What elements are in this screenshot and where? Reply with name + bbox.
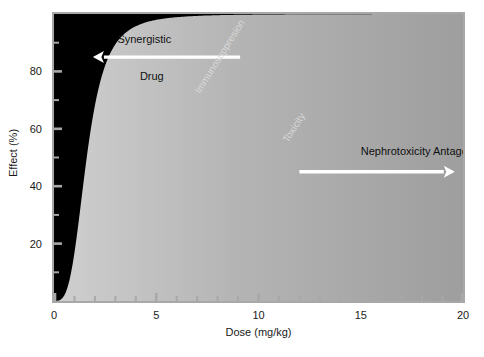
figure-dose-effect-chart: Effect (%) 20406080 <box>0 0 484 357</box>
annotation-drug: Drug <box>140 70 164 82</box>
annotation-nephrotoxicity-antagonist: Nephrotoxicity Antagonist <box>361 145 465 157</box>
x-tick-label-10: 10 <box>252 309 264 321</box>
y-axis: Effect (%) 20406080 <box>0 12 52 303</box>
plot-area: Immunosuppresion Toxicity Synergistic Dr… <box>52 12 465 303</box>
y-tick-label-40: 40 <box>30 180 42 192</box>
y-tick-label-20: 20 <box>30 238 42 250</box>
y-tick-label-80: 80 <box>30 65 42 77</box>
x-tick-label-15: 15 <box>355 309 367 321</box>
y-tick-label-60: 60 <box>30 123 42 135</box>
x-tick-label-20: 20 <box>457 309 469 321</box>
annotation-synergistic: Synergistic <box>117 33 171 45</box>
x-axis: 05101520 Dose (mg/kg) <box>52 303 465 343</box>
x-axis-title: Dose (mg/kg) <box>52 326 465 338</box>
x-tick-label-5: 5 <box>153 309 159 321</box>
x-tick-label-0: 0 <box>51 309 57 321</box>
y-axis-title: Effect (%) <box>7 108 19 198</box>
plot-canvas <box>54 14 463 301</box>
